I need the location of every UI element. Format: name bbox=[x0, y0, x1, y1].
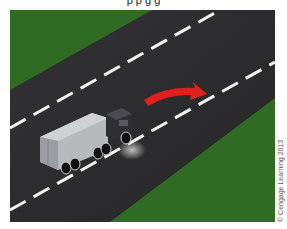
highway-illustration bbox=[10, 10, 275, 222]
copyright-credit: © Cengage Learning 2013 bbox=[277, 140, 284, 222]
headlight-glow-front bbox=[118, 140, 146, 160]
caption-top-cropped: p p g g bbox=[0, 0, 287, 6]
road-scene bbox=[10, 10, 275, 222]
